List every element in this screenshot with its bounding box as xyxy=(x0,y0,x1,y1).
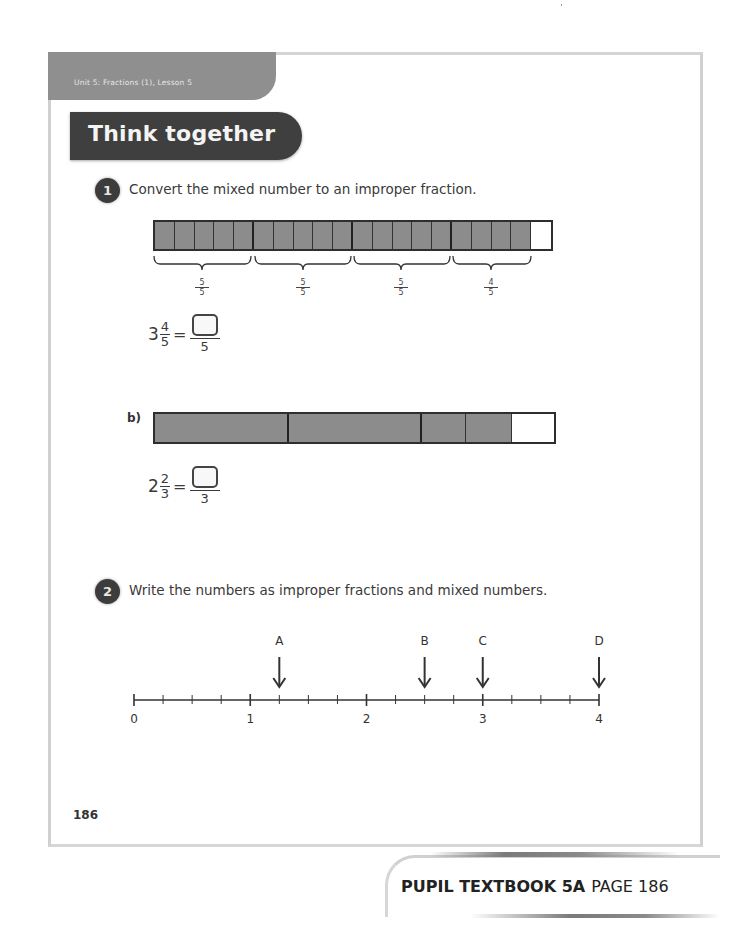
part-b-label: b) xyxy=(127,411,141,425)
bar-model-thirds xyxy=(153,412,556,444)
question-2-prompt: Write the numbers as improper fractions … xyxy=(129,582,547,598)
number-line-tick-label: 0 xyxy=(130,712,138,726)
question-1-prompt: Convert the mixed number to an improper … xyxy=(129,181,477,197)
mixed-fraction: 2 3 xyxy=(160,472,170,501)
improper-fraction: 5 xyxy=(190,314,220,354)
bar-cell-fifth-empty xyxy=(531,222,551,249)
bar-cell-third xyxy=(422,414,466,442)
bar-cell-fifth xyxy=(195,222,215,249)
unit-tab-label: Unit 5: Fractions (1), Lesson 5 xyxy=(74,78,192,87)
bar-cell-fifth xyxy=(254,222,274,249)
equation-b: 2 2 3 = 3 xyxy=(148,466,220,506)
answer-box-numerator[interactable] xyxy=(192,314,218,336)
number-line-tick-label: 2 xyxy=(363,712,371,726)
bar-cell-fifth xyxy=(432,222,452,249)
bar-cell-fifth xyxy=(353,222,373,249)
brace-label-3: 55 xyxy=(394,278,408,297)
footer-reference: PUPIL TEXTBOOK 5APAGE 186 xyxy=(401,877,669,896)
bar-cell-fifth xyxy=(373,222,393,249)
marker-label: C xyxy=(479,634,487,648)
brace-label-4: 45 xyxy=(484,278,498,297)
footer-shadow xyxy=(470,914,720,918)
brace-label-2: 55 xyxy=(296,278,310,297)
brace-group xyxy=(150,254,540,276)
bar-cell-fifth xyxy=(214,222,234,249)
textbook-page xyxy=(48,52,703,847)
scan-speck xyxy=(561,4,562,6)
unit-tab: Unit 5: Fractions (1), Lesson 5 xyxy=(48,52,276,100)
bar-cell-third-empty xyxy=(512,414,554,442)
number-line-tick-label: 4 xyxy=(595,712,603,726)
bar-cell-fifth xyxy=(294,222,314,249)
whole-number: 2 xyxy=(148,476,159,496)
marker-label: A xyxy=(275,634,283,648)
bar-cell-third xyxy=(466,414,512,442)
answer-box-numerator[interactable] xyxy=(192,466,218,488)
banner-title: Think together xyxy=(88,121,275,146)
bar-cell-fifth xyxy=(511,222,531,249)
question-1-badge: 1 xyxy=(95,178,120,203)
bar-cell-fifth xyxy=(492,222,512,249)
number-line-tick-label: 1 xyxy=(246,712,254,726)
bar-cell-fifth xyxy=(234,222,254,249)
footer-shadow xyxy=(430,852,680,857)
page-label: PAGE 186 xyxy=(591,877,668,896)
brace-label-1: 55 xyxy=(195,278,209,297)
equation-a: 3 4 5 = 5 xyxy=(148,314,220,354)
think-together-banner: Think together xyxy=(70,112,302,160)
bar-cell-fifth xyxy=(274,222,294,249)
bar-cell-fifth xyxy=(412,222,432,249)
marker-label: B xyxy=(421,634,429,648)
number-line-tick-label: 3 xyxy=(479,712,487,726)
marker-label: D xyxy=(594,634,603,648)
improper-fraction: 3 xyxy=(190,466,220,506)
mixed-fraction: 4 5 xyxy=(160,320,170,349)
bar-cell-fifth xyxy=(175,222,195,249)
question-2-badge: 2 xyxy=(95,579,120,604)
bar-cell-fifth xyxy=(155,222,175,249)
bar-cell-fifth xyxy=(472,222,492,249)
bar-cell-whole xyxy=(155,414,289,442)
book-label: PUPIL TEXTBOOK 5A xyxy=(401,877,585,896)
bar-model-fifths xyxy=(153,220,553,251)
bar-cell-fifth xyxy=(393,222,413,249)
bar-cell-fifth xyxy=(452,222,472,249)
whole-number: 3 xyxy=(148,324,159,344)
page-number: 186 xyxy=(73,808,98,822)
bar-cell-whole xyxy=(289,414,422,442)
bar-cell-fifth xyxy=(333,222,353,249)
bar-cell-fifth xyxy=(313,222,333,249)
